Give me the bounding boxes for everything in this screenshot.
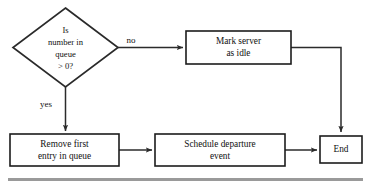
edge-label-yes: yes [40,99,52,109]
remove-entry-label-line-1: Remove first [40,139,89,149]
decision-diamond-shape [13,8,118,87]
edge-mark-idle-to-end [291,48,341,133]
decision-label-line-4: > 0? [58,61,73,71]
mark-idle-label-line-2: as idle [226,48,250,58]
horizontal-rule [8,178,363,181]
node-decision[interactable]: Is number in queue > 0? [13,8,118,87]
node-mark-idle[interactable]: Mark server as idle [186,31,291,64]
schedule-departure-label-line-2: event [210,151,231,161]
node-remove-entry[interactable]: Remove first entry in queue [10,134,119,166]
decision-label-line-3: queue [55,49,76,59]
decision-label-line-2: number in [48,37,84,47]
node-schedule-departure[interactable]: Schedule departure event [155,134,285,166]
mark-idle-label-line-1: Mark server [216,36,262,46]
schedule-departure-label-line-1: Schedule departure [184,139,256,149]
edge-label-no: no [127,35,137,45]
flowchart-canvas: Is number in queue > 0? no yes Mark serv… [0,0,371,186]
decision-label-line-1: Is [62,25,69,35]
remove-entry-label-line-2: entry in queue [38,151,91,161]
node-end[interactable]: End [320,136,362,163]
flowchart-svg: Is number in queue > 0? no yes Mark serv… [0,0,371,186]
end-label: End [334,144,349,154]
